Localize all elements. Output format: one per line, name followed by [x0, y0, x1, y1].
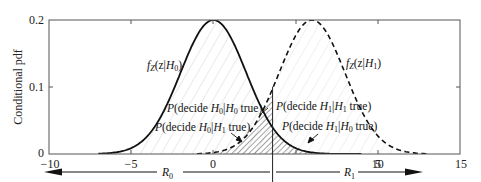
- h1-area-fill: [273, 20, 419, 154]
- y-tick-label: 0.2: [29, 13, 44, 27]
- h0-area-fill: [107, 20, 273, 154]
- x-tick-label: −5: [125, 157, 138, 171]
- p-decide-h0-given-h1: P(decide H0|H1 true): [154, 121, 250, 135]
- p-decide-h1-given-h0: P(decide H1|H0 true): [281, 120, 377, 134]
- x-tick-label: −10: [41, 157, 60, 171]
- conditional-pdf-chart: 0.2 0.1 0 −10 −5 0 5 5 10 15 Conditional…: [0, 0, 481, 182]
- region-r0-arrow: R0: [44, 166, 270, 181]
- y-axis-label: Conditional pdf: [11, 49, 25, 125]
- y-tick-label: 0.1: [29, 80, 44, 94]
- h1-curve-label: fZ(z|H1): [346, 57, 381, 71]
- region-r0-label: R0: [161, 166, 173, 181]
- p-decide-h1-given-h1: P(decide H1|H1 true): [275, 100, 371, 114]
- h0-curve-label: fZ(z|H0): [147, 59, 182, 73]
- arrow-right-icon: [405, 169, 423, 176]
- x-tick-label-10: 10: [372, 157, 384, 171]
- x-tick-label: 0: [210, 157, 216, 171]
- x-tick-label: 15: [455, 157, 467, 171]
- p-decide-h0-given-h0: P(decide H0|H0 true): [166, 102, 262, 116]
- region-r1-label: R1: [343, 166, 355, 181]
- region-r1-arrow: R1: [276, 166, 423, 181]
